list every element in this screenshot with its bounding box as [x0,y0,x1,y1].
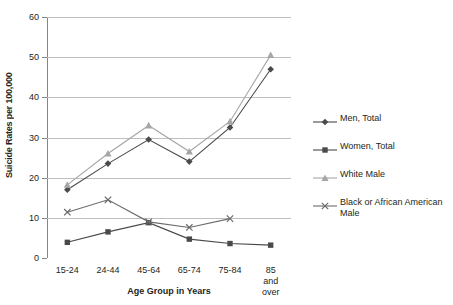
y-tick-label: 0 [34,254,39,263]
legend-marker-x-icon [312,198,338,210]
series-path [67,55,270,185]
x-tick-label: 45-64 [137,265,160,276]
data-point-triangle [104,150,111,157]
y-tick-label: 50 [29,53,39,62]
legend-label: White Male [338,169,385,180]
y-tick-label: 20 [29,173,39,182]
data-point-triangle [267,52,274,59]
data-point-triangle [226,118,233,125]
series-layer [47,17,291,258]
series-line [64,66,274,193]
data-point-triangle [145,122,152,129]
legend-item[interactable]: White Male [312,169,452,182]
x-tick-label: 15-24 [56,265,79,276]
y-axis-tick [42,258,47,259]
legend-label: Black or African American Male [338,197,452,219]
series-path [67,223,270,245]
data-point-diamond [322,119,329,126]
data-point-square [322,147,327,152]
x-axis-title: Age Group in Years [47,286,291,296]
y-axis-title: Suicide Rates per 100,000 [2,50,15,200]
x-tick-label: 65-74 [178,265,201,276]
series-path [67,69,270,189]
data-point-diamond [267,66,274,73]
legend-item[interactable]: Men, Total [312,113,452,126]
series-line [64,197,233,231]
data-point-diamond [145,136,152,143]
data-point-square [268,242,273,247]
series-line [64,52,275,188]
y-tick-label: 40 [29,93,39,102]
plot-area: 0102030405060 15-2424-4445-6465-7475-848… [47,17,291,258]
legend-marker-triangle-icon [312,170,338,182]
legend-item[interactable]: Women, Total [312,141,452,154]
data-point-triangle [186,148,193,155]
legend-item[interactable]: Black or African American Male [312,197,452,219]
legend-label: Men, Total [338,113,381,124]
data-point-x [64,209,70,215]
data-point-square [105,229,110,234]
y-tick-label: 30 [29,133,39,142]
chart-page: Suicide Rates per 100,000 0102030405060 … [0,0,453,305]
data-point-square [187,236,192,241]
legend-marker-diamond-icon [312,114,338,126]
x-tick-label: 75-84 [218,265,241,276]
x-tick-label: 24-44 [96,265,119,276]
data-point-square [227,241,232,246]
legend-marker-square-icon [312,142,338,154]
y-tick-label: 60 [29,13,39,22]
data-point-diamond [105,160,112,167]
data-point-x [105,197,111,203]
y-tick-label: 10 [29,213,39,222]
legend-label: Women, Total [338,141,395,152]
chart-legend: Men, TotalWomen, TotalWhite MaleBlack or… [312,113,452,234]
data-point-square [65,240,70,245]
